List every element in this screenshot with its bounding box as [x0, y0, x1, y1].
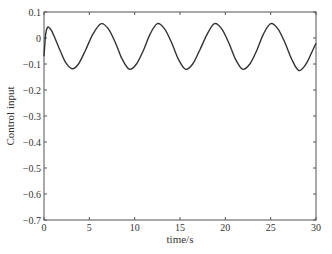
y-tick-label: 0.1	[29, 7, 42, 18]
x-tick-label: 10	[130, 222, 140, 233]
x-tick-label: 5	[87, 222, 92, 233]
y-tick-label: −0.5	[23, 163, 41, 174]
x-tick-label: 30	[311, 222, 321, 233]
plot-frame	[44, 12, 316, 220]
y-axis-label: Control input	[4, 87, 16, 146]
x-axis-ticks: 051015202530	[42, 12, 322, 233]
y-tick-label: −0.1	[23, 59, 41, 70]
y-tick-label: 0	[36, 33, 41, 44]
plot-area: 051015202530 0.10−0.1−0.2−0.3−0.4−0.5−0.…	[23, 7, 321, 234]
line-chart: 051015202530 0.10−0.1−0.2−0.3−0.4−0.5−0.…	[0, 0, 332, 254]
y-tick-label: −0.6	[23, 189, 41, 200]
x-tick-label: 15	[175, 222, 185, 233]
control-input-line	[44, 24, 316, 71]
y-tick-label: −0.2	[23, 85, 41, 96]
x-tick-label: 25	[266, 222, 276, 233]
y-tick-label: −0.3	[23, 111, 41, 122]
y-tick-label: −0.7	[23, 215, 41, 226]
x-axis-label: time/s	[167, 233, 194, 245]
y-tick-label: −0.4	[23, 137, 41, 148]
x-tick-label: 20	[220, 222, 230, 233]
x-tick-label: 0	[42, 222, 47, 233]
